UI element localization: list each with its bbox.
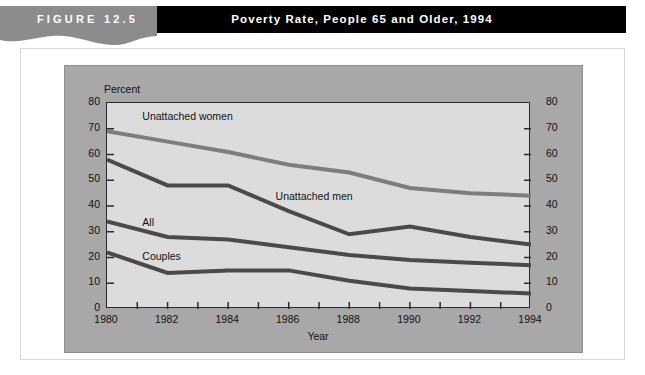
y-tick-label-right: 60 bbox=[546, 147, 558, 159]
series-label-couples: Couples bbox=[142, 250, 181, 262]
y-tick-label-left: 20 bbox=[79, 250, 100, 262]
bottom-axis-ticks bbox=[137, 302, 500, 309]
y-tick-label-right: 40 bbox=[546, 198, 558, 210]
series-lines bbox=[107, 131, 531, 293]
x-tick-label: 1994 bbox=[518, 313, 541, 325]
y-tick-label-left: 60 bbox=[79, 147, 100, 159]
x-tick-label: 1982 bbox=[155, 313, 178, 325]
y-tick-label-left: 50 bbox=[79, 172, 100, 184]
series-label-all: All bbox=[142, 216, 154, 228]
y-tick-label-right: 10 bbox=[546, 275, 558, 287]
x-tick-label: 1992 bbox=[458, 313, 481, 325]
series-label-unattached-women: Unattached women bbox=[142, 110, 232, 122]
y-tick-label-left: 10 bbox=[79, 275, 100, 287]
x-tick-label: 1986 bbox=[276, 313, 299, 325]
chart-lines bbox=[107, 103, 531, 309]
y-tick-label-left: 70 bbox=[79, 121, 100, 133]
x-tick-label: 1980 bbox=[94, 313, 117, 325]
y-tick-label-right: 80 bbox=[546, 95, 558, 107]
figure-number-label: FIGURE 12.5 bbox=[0, 6, 157, 33]
y-tick-label-right: 50 bbox=[546, 172, 558, 184]
x-tick-label: 1990 bbox=[397, 313, 420, 325]
y-tick-label-left: 40 bbox=[79, 198, 100, 210]
y-tick-label-right: 20 bbox=[546, 250, 558, 262]
x-tick-label: 1988 bbox=[337, 313, 360, 325]
figure-header: Poverty Rate, People 65 and Older, 1994 … bbox=[0, 6, 645, 46]
chart-panel: Percent 01020304050607080 01020304050607… bbox=[64, 65, 583, 353]
y-tick-label-left: 0 bbox=[79, 301, 100, 313]
x-tick-label: 1984 bbox=[215, 313, 238, 325]
plot-area bbox=[106, 102, 530, 308]
y-tick-label-right: 70 bbox=[546, 121, 558, 133]
y-tick-label-right: 0 bbox=[546, 301, 552, 313]
y-tick-label-right: 30 bbox=[546, 224, 558, 236]
y-tick-label-left: 80 bbox=[79, 95, 100, 107]
left-axis-ticks bbox=[107, 129, 114, 284]
y-axis-title: Percent bbox=[104, 83, 140, 95]
y-tick-label-left: 30 bbox=[79, 224, 100, 236]
series-label-unattached-men: Unattached men bbox=[276, 190, 353, 202]
right-axis-ticks bbox=[524, 129, 531, 284]
figure-number-tab: FIGURE 12.5 bbox=[0, 6, 157, 46]
plot-wrapper: Percent 01020304050607080 01020304050607… bbox=[106, 102, 530, 308]
x-axis-title: Year bbox=[106, 330, 530, 342]
